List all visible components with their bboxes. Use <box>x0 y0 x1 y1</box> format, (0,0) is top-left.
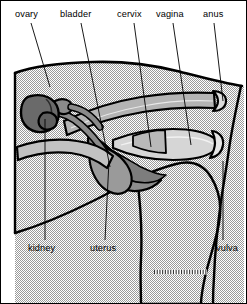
label-kidney: kidney <box>28 243 55 253</box>
anatomy-figure: ovary bladder cervix vagina anus kidney … <box>0 0 247 304</box>
label-bladder: bladder <box>60 9 91 19</box>
label-cervix: cervix <box>117 9 142 19</box>
label-ovary: ovary <box>15 9 38 19</box>
label-vagina: vagina <box>156 9 184 19</box>
label-uterus: uterus <box>90 243 116 253</box>
label-vulva: vulva <box>216 243 238 253</box>
ovary-organ <box>39 112 57 129</box>
label-anus: anus <box>203 9 223 19</box>
anatomy-diagram <box>1 1 247 304</box>
